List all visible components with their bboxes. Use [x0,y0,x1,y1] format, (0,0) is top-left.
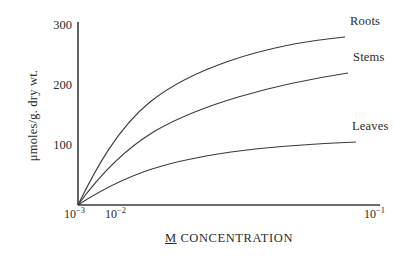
series-curve-roots [78,37,345,205]
x-axis-title-text: CONCENTRATION [177,231,293,245]
y-tick-label-300: 300 [32,18,72,33]
series-label-roots: Roots [350,14,380,29]
y-axis-title: μmoles/g. dry wt. [26,31,41,201]
x-tick-exponent: −3 [76,205,85,215]
series-curve-leaves [78,142,356,205]
x-axis-molar-symbol: M [165,231,177,245]
series-label-leaves: Leaves [352,119,389,134]
y-tick-label-100: 100 [32,138,72,153]
x-tick-exponent: −2 [117,205,126,215]
x-axis-title: M CONCENTRATION [78,231,380,246]
chart-figure: μmoles/g. dry wt. 300 200 100 10−3 10−2 … [0,0,420,258]
x-tick-mantissa: 10 [105,207,117,221]
x-tick-label-1e-2: 10−2 [105,207,126,222]
x-tick-mantissa: 10 [64,207,76,221]
x-tick-mantissa: 10 [364,207,376,221]
series-curve-stems [78,73,348,205]
y-tick-label-200: 200 [32,78,72,93]
x-tick-label-1e-1: 10−1 [364,207,385,222]
x-tick-exponent: −1 [376,205,385,215]
x-tick-label-1e-3: 10−3 [64,207,85,222]
series-label-stems: Stems [353,50,385,65]
